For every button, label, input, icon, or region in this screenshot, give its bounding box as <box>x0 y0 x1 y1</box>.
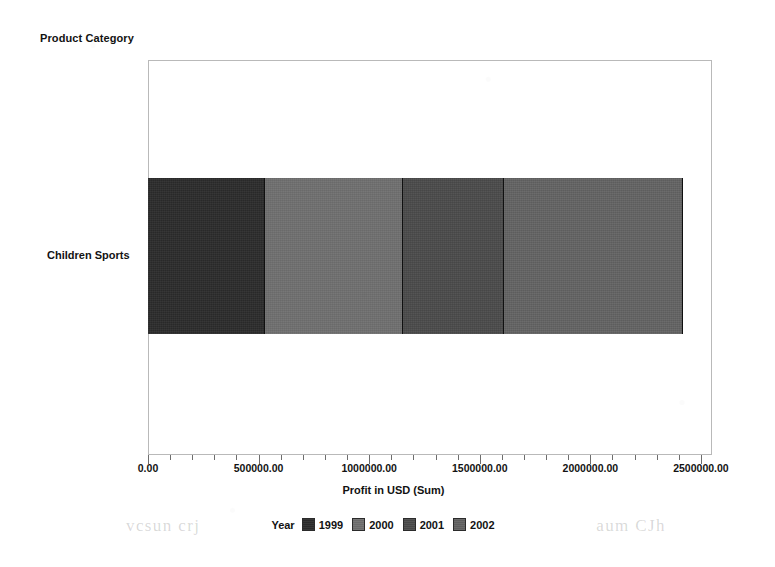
x-tick-label-500000: 500000.00 <box>234 462 284 474</box>
x-tick-label-1500000: 1500000.00 <box>452 462 507 474</box>
x-tick-label-1000000: 1000000.00 <box>341 462 396 474</box>
legend-swatch-2002 <box>453 518 466 531</box>
x-tick-minor <box>391 455 392 460</box>
legend-item-2001[interactable]: 2001 <box>403 518 444 531</box>
x-axis-title: Profit in USD (Sum) <box>342 484 444 496</box>
x-tick-minor <box>524 455 525 460</box>
x-tick-label-0: 0.00 <box>138 462 158 474</box>
stacked-bar-children-sports <box>148 178 683 334</box>
x-tick-minor <box>170 455 171 460</box>
x-tick-minor <box>303 455 304 460</box>
x-tick-minor <box>612 455 613 460</box>
x-tick-minor <box>347 455 348 460</box>
x-tick-minor <box>413 455 414 460</box>
bar-segment-1999[interactable] <box>148 178 265 334</box>
x-tick-label-2000000: 2000000.00 <box>563 462 618 474</box>
y-axis-title: Product Category <box>40 32 134 44</box>
bar-segment-2000[interactable] <box>265 178 403 334</box>
bar-segment-2001[interactable] <box>403 178 504 334</box>
chart-container: Product Category Children Sports 0.00500… <box>0 0 775 567</box>
legend-label-2001: 2001 <box>420 519 444 531</box>
x-tick-label-2500000: 2500000.00 <box>673 462 728 474</box>
x-tick-minor <box>502 455 503 460</box>
x-tick-minor <box>679 455 680 460</box>
legend-swatch-2000 <box>352 518 365 531</box>
x-tick-minor <box>568 455 569 460</box>
x-axis-ticks <box>148 455 712 465</box>
legend-swatch-2001 <box>403 518 416 531</box>
x-tick-minor <box>236 455 237 460</box>
legend-label-2000: 2000 <box>369 519 393 531</box>
x-tick-minor <box>281 455 282 460</box>
legend-label-2002: 2002 <box>470 519 494 531</box>
legend-item-2000[interactable]: 2000 <box>352 518 393 531</box>
legend-title: Year <box>271 519 294 531</box>
chart-legend: Year 1999200020012002 <box>0 518 775 531</box>
x-tick-minor <box>635 455 636 460</box>
x-tick-minor <box>657 455 658 460</box>
legend-item-2002[interactable]: 2002 <box>453 518 494 531</box>
legend-item-1999[interactable]: 1999 <box>302 518 343 531</box>
legend-swatch-1999 <box>302 518 315 531</box>
x-axis-title-wrap: Profit in USD (Sum) <box>0 484 775 496</box>
x-tick-minor <box>436 455 437 460</box>
category-label-children-sports: Children Sports <box>47 249 130 261</box>
x-tick-minor <box>458 455 459 460</box>
bar-segment-2002[interactable] <box>504 178 683 334</box>
x-tick-minor <box>325 455 326 460</box>
x-tick-minor <box>214 455 215 460</box>
x-tick-minor <box>192 455 193 460</box>
x-tick-minor <box>546 455 547 460</box>
legend-label-1999: 1999 <box>319 519 343 531</box>
